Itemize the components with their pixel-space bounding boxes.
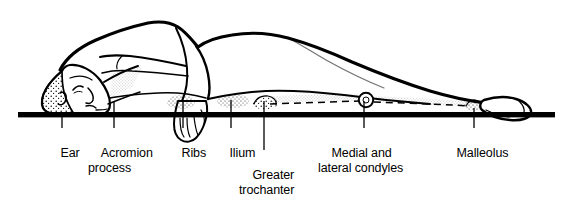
condyle-circle xyxy=(359,93,373,107)
forearm-contour xyxy=(100,55,186,66)
thigh-upper-contour xyxy=(288,38,384,88)
label-medial-and-lateral-condyles: Medial andlateral condyles xyxy=(318,131,403,197)
label-medial-and-lateral-condyles-line2: lateral condyles xyxy=(318,161,403,176)
ilium-landmark xyxy=(217,94,249,108)
elbow-crease xyxy=(117,56,122,69)
label-greater-trochanter-line2: trochanter xyxy=(239,183,294,197)
label-ear-line1: Ear xyxy=(61,146,80,160)
deltoid-crease xyxy=(196,46,210,99)
label-acromion-process-line2: process xyxy=(88,161,153,176)
label-malleolus-line1: Malleolus xyxy=(457,146,509,160)
label-ribs: Ribs xyxy=(168,131,206,176)
anatomy-figure: Ear Acromionprocess Ribs Ilium Greatertr… xyxy=(0,0,566,197)
label-acromion-process-line1: Acromion xyxy=(101,146,153,160)
label-ear: Ear xyxy=(47,131,80,176)
label-acromion-process: Acromionprocess xyxy=(88,131,153,197)
label-ribs-line1: Ribs xyxy=(182,146,207,160)
label-greater-trochanter-line1: Greater xyxy=(253,168,295,182)
label-greater-trochanter: Greatertrochanter xyxy=(239,153,294,197)
label-malleolus: Malleolus xyxy=(443,131,508,176)
ribs-landmark xyxy=(167,95,195,109)
label-medial-and-lateral-condyles-line1: Medial and xyxy=(332,146,392,160)
